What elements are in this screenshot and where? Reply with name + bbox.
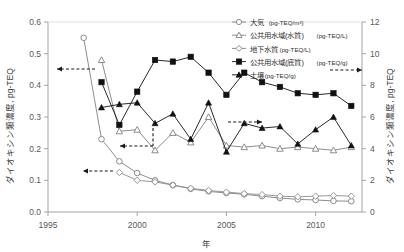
data-point-square-filled [188, 54, 193, 59]
data-point-square-filled [277, 84, 282, 89]
data-point-square-filled [170, 59, 175, 64]
y-tick-label-left: 0.4 [29, 80, 41, 90]
data-point-square-filled [206, 70, 211, 75]
legend-unit: (pg-TEQ/g) [265, 72, 296, 79]
y-tick-label-right: 8 [370, 80, 375, 90]
x-tick-label: 2010 [306, 220, 325, 230]
legend-label: 土壌 [250, 71, 265, 80]
data-point-square-filled [117, 122, 122, 127]
legend-label: 地下水質 [250, 45, 278, 54]
y-tick-label-left: 0.5 [29, 49, 41, 59]
data-point-circle-open [99, 136, 105, 142]
data-point-square-filled [349, 103, 354, 108]
x-tick-label: 2005 [217, 220, 236, 230]
legend-unit: (pg-TEQ/m³) [269, 19, 304, 26]
y-tick-label-right: 2 [370, 175, 375, 185]
y-tick-label-left: 0.6 [29, 17, 41, 27]
y-tick-label-right: 4 [370, 144, 375, 154]
legend-label: 公共用水域(水質) [250, 31, 304, 40]
y-tick-label-left: 0.3 [29, 112, 41, 122]
legend-item-3[interactable]: 公共用水域(底質)(pg-TEQ/g) [232, 58, 348, 67]
y-tick-label-right: 12 [370, 17, 380, 27]
data-point-square-filled [331, 91, 336, 96]
data-point-square-filled [236, 59, 241, 64]
data-point-circle-open [81, 35, 87, 41]
data-point-square-filled [313, 92, 318, 97]
data-point-square-filled [135, 89, 140, 94]
y-axis-right-title: ダイオキシン類濃度, pg-TEQ [385, 68, 395, 184]
x-tick-label: 1995 [39, 220, 58, 230]
dioxin-concentration-chart: 0.00.10.20.30.40.50.6 024681012 19952000… [0, 0, 404, 252]
legend-item-1[interactable]: 公共用水域(水質)(pg-TEQ/L) [232, 31, 348, 40]
data-point-circle-open [134, 170, 140, 176]
y-tick-label-right: 10 [370, 49, 380, 59]
data-point-square-filled [99, 79, 104, 84]
y-tick-label-left: 0.0 [29, 207, 41, 217]
legend-unit: (pg-TEQ/g) [317, 59, 348, 66]
y-tick-label-left: 0.1 [29, 175, 41, 185]
data-point-square-filled [224, 92, 229, 97]
y-axis-left-title: ダイオキシン類濃度, pg-TEQ [5, 68, 15, 184]
y-tick-label-left: 0.2 [29, 144, 41, 154]
x-axis-title: 年 [202, 239, 211, 249]
data-point-circle-open [117, 159, 123, 165]
legend-unit: (pg-TEQ/L) [317, 32, 348, 39]
data-point-circle-open [236, 19, 241, 24]
legend-label: 大気 [250, 18, 265, 27]
x-tick-label: 2000 [128, 220, 147, 230]
y-tick-label-right: 6 [370, 112, 375, 122]
legend-label: 公共用水域(底質) [250, 58, 304, 67]
y-tick-label-right: 0 [370, 207, 375, 217]
chart-canvas: 0.00.10.20.30.40.50.6 024681012 19952000… [0, 0, 404, 252]
data-point-square-filled [259, 79, 264, 84]
legend-unit: (pg-TEQ/L) [280, 46, 311, 53]
data-point-square-filled [295, 91, 300, 96]
data-point-square-filled [152, 57, 157, 62]
